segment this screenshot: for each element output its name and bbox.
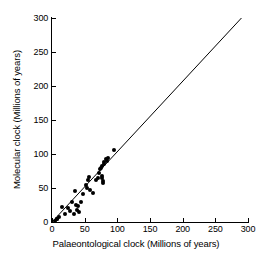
y-tick-label-text: 100 bbox=[34, 150, 48, 159]
x-tick-label-text: 300 bbox=[241, 224, 255, 234]
plot-area bbox=[52, 18, 248, 222]
data-point bbox=[112, 148, 116, 152]
x-tick-label-text: 200 bbox=[175, 224, 189, 234]
y-axis-label-container: Molecular clock (Millions of years) bbox=[0, 0, 18, 240]
data-point bbox=[101, 181, 105, 185]
y-tick-label-text: 250 bbox=[34, 48, 48, 57]
x-tick-label-text: 150 bbox=[143, 224, 157, 234]
y-tick-label-text: 50 bbox=[38, 184, 48, 193]
x-axis-label: Palaeontological clock (Millions of year… bbox=[0, 238, 272, 249]
x-tick-label-text: 100 bbox=[110, 224, 124, 234]
y-tick-label-text: 200 bbox=[34, 82, 48, 91]
x-tick-label-text: 250 bbox=[208, 224, 222, 234]
data-point bbox=[63, 212, 67, 216]
scatter-plot-figure: 050100150200250300 050100150200250300 Pa… bbox=[0, 0, 272, 262]
data-point bbox=[96, 176, 100, 180]
y-tick-label-text: 0 bbox=[43, 218, 48, 227]
data-point bbox=[72, 212, 76, 216]
y-tick-label-text: 300 bbox=[34, 14, 48, 23]
x-tick-label-text: 50 bbox=[80, 224, 90, 234]
data-point bbox=[57, 215, 61, 219]
y-tick-label-text: 150 bbox=[34, 116, 48, 125]
data-point bbox=[70, 200, 74, 204]
identity-line-segment bbox=[52, 18, 241, 222]
x-axis-line bbox=[51, 222, 249, 223]
y-axis-label: Molecular clock (Millions of years) bbox=[11, 0, 22, 240]
data-point bbox=[79, 200, 83, 204]
x-tick-label-text: 0 bbox=[50, 224, 55, 234]
data-point bbox=[81, 192, 85, 196]
x-tick bbox=[248, 218, 249, 222]
data-point bbox=[76, 204, 80, 208]
data-point bbox=[91, 191, 95, 195]
